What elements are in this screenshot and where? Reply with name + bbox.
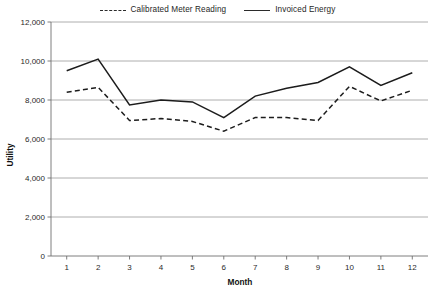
y-tick-label: 4,000 [25,174,46,183]
x-tick-label: 6 [222,263,227,272]
y-tick-label: 12,000 [21,18,46,27]
y-tick-labels: 02,0004,0006,0008,00010,00012,000 [21,18,46,261]
x-tick-label: 11 [377,263,386,272]
y-gridlines [51,22,428,217]
x-tick-label: 2 [96,263,101,272]
data-series [67,59,413,131]
x-tick-label: 7 [253,263,258,272]
series-line-calibrated-meter-reading [67,86,413,131]
x-tick-label: 9 [316,263,321,272]
x-tick-label: 12 [408,263,417,272]
y-tick-marks [48,22,52,256]
line-chart: Calibrated Meter Reading Invoiced Energy… [0,0,435,291]
x-axis-title: Month [228,277,253,287]
chart-plot-area: 02,0004,0006,0008,00010,00012,000 123456… [0,0,435,291]
y-tick-label: 10,000 [21,57,46,66]
x-tick-labels: 123456789101112 [64,263,417,272]
y-tick-label: 0 [41,252,46,261]
x-tick-label: 5 [190,263,195,272]
x-tick-label: 4 [159,263,164,272]
x-tick-marks [67,256,413,260]
y-tick-label: 2,000 [25,213,46,222]
x-tick-label: 3 [127,263,132,272]
x-tick-label: 1 [64,263,69,272]
y-tick-label: 6,000 [25,135,46,144]
y-axis-title: Utility [5,143,15,166]
x-tick-label: 8 [284,263,289,272]
y-tick-label: 8,000 [25,96,46,105]
x-tick-label: 10 [345,263,354,272]
